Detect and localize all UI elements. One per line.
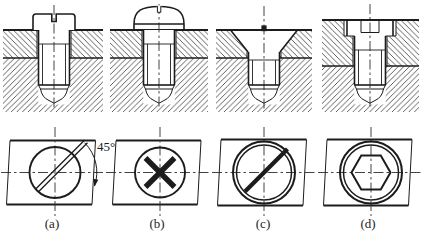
upper-plate-hatch bbox=[110, 30, 142, 58]
lower-plate-hatch bbox=[386, 66, 420, 112]
upper-plate-hatch bbox=[176, 30, 208, 58]
upper-plate-hatch bbox=[71, 30, 103, 58]
column-label-d: (d) bbox=[360, 216, 375, 231]
drawing-svg: 45° bbox=[0, 0, 423, 242]
column-label-b: (b) bbox=[149, 216, 164, 231]
column-labels: (a) (b) (c) (d) bbox=[45, 216, 376, 231]
column-a-top-view: 45° bbox=[1, 127, 115, 216]
lower-plate-hatch bbox=[3, 58, 39, 112]
column-c-top-view bbox=[212, 127, 315, 216]
column-a-section bbox=[3, 5, 103, 112]
lower-plate-hatch bbox=[280, 58, 313, 112]
slot-mark-45deg bbox=[245, 149, 288, 192]
dimension-arrowhead bbox=[93, 179, 98, 187]
column-b-section bbox=[110, 4, 208, 112]
lower-plate-hatch bbox=[110, 58, 144, 112]
lower-plate-hatch bbox=[322, 66, 355, 112]
column-label-c: (c) bbox=[256, 216, 270, 231]
lower-plate-hatch bbox=[175, 58, 209, 112]
slot-notch bbox=[261, 25, 266, 31]
lower-plate-hatch bbox=[70, 58, 104, 112]
angle-annotation: 45° bbox=[97, 139, 115, 154]
column-c-section bbox=[216, 6, 312, 112]
upper-plate-hatch bbox=[3, 30, 37, 58]
lower-plate-hatch bbox=[216, 58, 249, 112]
screw-types-figure: 45° bbox=[0, 0, 423, 242]
column-d-section bbox=[322, 4, 419, 112]
column-label-a: (a) bbox=[45, 216, 59, 231]
column-d-top-view bbox=[318, 127, 421, 216]
column-b-top-view bbox=[106, 127, 210, 216]
